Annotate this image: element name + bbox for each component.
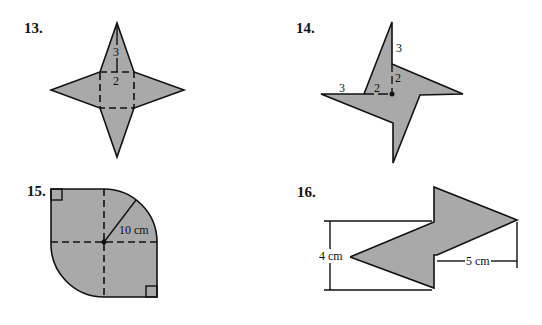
arrow-shape	[350, 187, 517, 288]
figure-15-rounded-square: 10 cm	[51, 189, 157, 297]
left-inner-label: 2	[374, 81, 380, 95]
figure-14-pinwheel: 3 2 3 2	[321, 22, 463, 163]
left-leg-label: 3	[339, 81, 345, 95]
width-label: 5 cm	[466, 254, 490, 268]
top-inner-label: 2	[395, 71, 401, 85]
top-leg-label: 3	[396, 41, 402, 55]
figures-canvas: 3 2 3 2 3 2 10 cm 4 cm 5 cm	[0, 0, 542, 325]
triangle-height-label: 3	[113, 45, 119, 59]
center-point	[390, 92, 395, 97]
figure-16-arrow: 4 cm 5 cm	[318, 187, 517, 290]
center-point	[102, 240, 107, 245]
radius-label: 10 cm	[119, 223, 149, 237]
square-side-label: 2	[113, 74, 119, 88]
height-label: 4 cm	[319, 249, 343, 263]
figure-13-star: 3 2	[51, 23, 184, 157]
